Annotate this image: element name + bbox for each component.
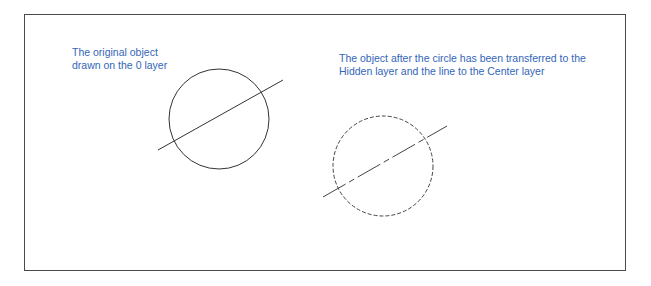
hidden-layer-circle	[333, 116, 433, 216]
original-circle	[169, 69, 269, 169]
original-object	[158, 69, 283, 169]
cad-drawing	[0, 0, 651, 286]
transferred-object	[323, 116, 447, 216]
